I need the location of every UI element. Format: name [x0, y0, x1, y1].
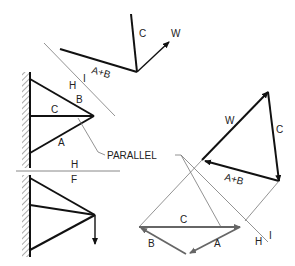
label-h-divider: H [71, 159, 78, 170]
label-b-lower: B [148, 238, 155, 249]
label-f-divider: F [71, 174, 77, 185]
label-c-top: C [139, 28, 146, 39]
label-c-truss: C [51, 104, 58, 115]
label-parallel: PARALLEL [107, 150, 157, 161]
label-i-lower: I [269, 230, 272, 241]
label-h-upper: H [69, 80, 76, 91]
vector-w-triangle [202, 92, 268, 160]
vector-c-top [131, 14, 137, 72]
upper-truss [22, 72, 94, 168]
label-c-triangle: C [276, 124, 283, 135]
label-a-lower: A [214, 238, 221, 249]
label-ab-triangle: A+B [223, 171, 245, 187]
construction-ab-right [245, 181, 279, 221]
wall-hatch-upper [22, 72, 29, 168]
upper-vector-group [60, 14, 169, 72]
diagram-canvas: C W A+B H I B C A PARALLEL H F W C A+B [0, 0, 295, 266]
label-w-top: W [171, 28, 181, 39]
label-h-lower: H [255, 236, 262, 247]
force-triangle [202, 92, 279, 181]
label-b-truss: B [76, 94, 83, 105]
lower-truss [22, 175, 95, 257]
label-c-lower: C [180, 214, 187, 225]
construction-w-left [139, 160, 202, 227]
vector-w-top [137, 42, 169, 72]
wall-hatch-lower [22, 175, 29, 257]
label-w-triangle: W [225, 115, 235, 126]
member-bottom-lower [30, 215, 95, 250]
label-i-upper: I [83, 73, 86, 84]
vector-c-triangle [268, 92, 279, 181]
label-ab-top: A+B [90, 64, 112, 80]
label-a-truss: A [58, 137, 65, 148]
